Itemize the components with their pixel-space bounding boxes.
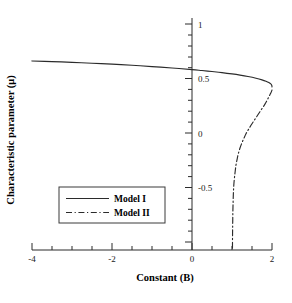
chart-figure: -4 -2 0 2 1 0.5 0 -0.5 Constant (B) Char… (0, 0, 292, 303)
x-tick-label-2: 0 (190, 254, 195, 264)
x-tick-label-1: -2 (108, 254, 116, 264)
series-line-model-i (32, 61, 272, 87)
x-axis-title: Constant (B) (136, 272, 194, 284)
y-tick-label-3: -0.5 (198, 183, 213, 193)
y-tick-label-2: 0 (198, 129, 203, 139)
legend-label-model-i: Model I (114, 194, 146, 204)
x-tick-label-0: -4 (28, 254, 36, 264)
legend-label-model-ii: Model II (114, 208, 150, 218)
chart-plot-area: -4 -2 0 2 1 0.5 0 -0.5 Constant (B) Char… (0, 0, 292, 303)
y-axis-title: Characteristic parameter (μ) (5, 75, 17, 205)
chart-legend: Model I Model II (59, 187, 165, 223)
x-axis-minor-ticks (52, 246, 252, 250)
series-line-model-ii (232, 90, 272, 250)
y-tick-label-1: 0.5 (198, 74, 210, 84)
x-tick-label-3: 2 (270, 254, 275, 264)
y-tick-label-0: 1 (198, 20, 203, 30)
